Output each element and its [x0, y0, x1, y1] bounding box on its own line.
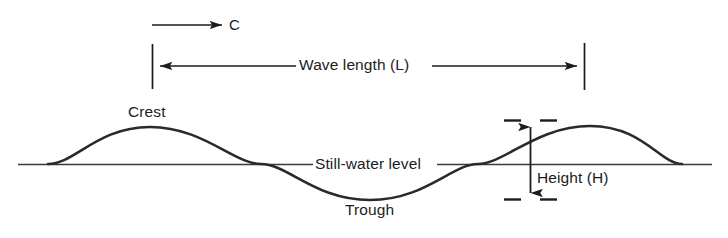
wave-length-label: Wave length (L): [296, 57, 412, 73]
crest-label: Crest: [128, 104, 166, 120]
celerity-label: C: [229, 17, 240, 32]
wave-diagram: C Wave length (L) Crest Still-water leve…: [0, 0, 728, 238]
still-water-level-label: Still-water level: [313, 156, 423, 172]
trough-label: Trough: [345, 202, 394, 218]
wave-height-label: Height (H): [537, 170, 609, 186]
